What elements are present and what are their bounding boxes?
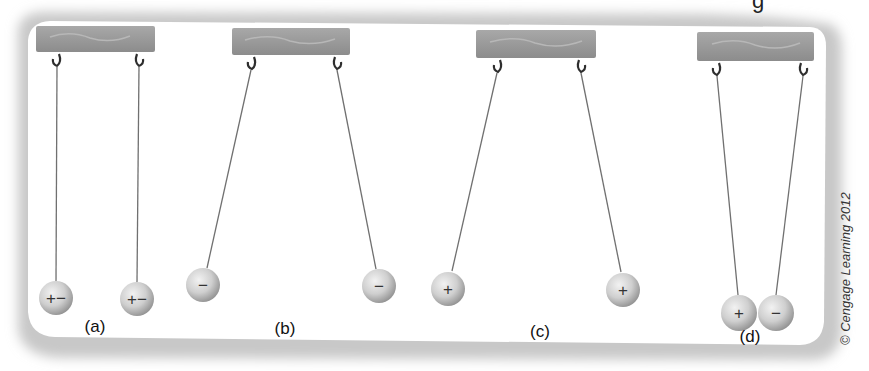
svg-text:+: + bbox=[734, 304, 744, 323]
sphere-negative: − bbox=[186, 268, 220, 302]
sphere-negative: − bbox=[362, 269, 396, 303]
cropped-caption-glyph: g bbox=[752, 0, 764, 14]
panel-label: (d) bbox=[740, 327, 761, 346]
svg-text:−: − bbox=[198, 276, 208, 295]
svg-text:+−: +− bbox=[46, 289, 66, 308]
copyright-notice: © Cengage Learning 2012 bbox=[838, 192, 853, 345]
sphere-positive: + bbox=[431, 272, 465, 306]
svg-text:+: + bbox=[618, 281, 628, 300]
panel-label: (a) bbox=[85, 317, 106, 336]
sphere-neutral: +− bbox=[120, 282, 154, 316]
support-bar bbox=[697, 32, 814, 61]
sphere-positive: + bbox=[606, 273, 640, 307]
pendulum-diagram: +− +− (a) − − bbox=[0, 0, 869, 371]
sphere-negative: − bbox=[758, 295, 794, 331]
svg-text:+−: +− bbox=[127, 290, 147, 309]
figure: g bbox=[0, 0, 869, 371]
sphere-positive: + bbox=[721, 295, 757, 331]
sphere-neutral: +− bbox=[39, 281, 73, 315]
panel-label: (b) bbox=[275, 319, 296, 338]
svg-text:+: + bbox=[443, 280, 453, 299]
panel-label: (c) bbox=[530, 322, 550, 341]
svg-text:−: − bbox=[771, 304, 781, 323]
svg-text:−: − bbox=[374, 277, 384, 296]
